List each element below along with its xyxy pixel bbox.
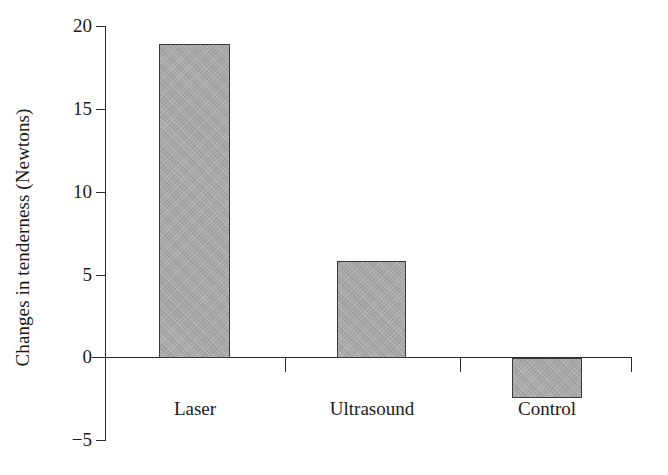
x-tick-mark-3 <box>631 358 632 372</box>
x-category-label-ultrasound: Ultrasound <box>306 398 438 420</box>
y-tick-label-5-wrap: 5 <box>48 265 92 284</box>
y-tick-label-15-wrap: 15 <box>48 99 92 118</box>
y-tick-mark-5 <box>96 275 105 276</box>
y-tick-label-20-wrap: 20 <box>48 16 92 35</box>
x-tick-mark-0 <box>105 358 106 372</box>
x-category-label-laser: Laser <box>134 398 256 420</box>
y-axis-spine <box>105 26 106 441</box>
bar-chart-figure: Changes in tenderness (Newtons) 20 15 10… <box>0 0 668 475</box>
y-tick-label-minus5-wrap: −5 <box>48 430 92 449</box>
y-tick-label-5: 5 <box>52 265 92 284</box>
y-tick-mark-20 <box>96 26 105 27</box>
bar-laser <box>159 44 230 358</box>
y-tick-label-0-wrap: 0 <box>48 347 92 366</box>
y-tick-mark-0 <box>96 357 105 358</box>
y-tick-label-10: 10 <box>52 182 92 201</box>
x-category-label-control: Control <box>482 398 612 420</box>
x-tick-mark-1 <box>285 358 286 372</box>
bar-ultrasound <box>337 261 406 358</box>
y-tick-label-minus5: −5 <box>52 430 92 449</box>
y-tick-mark-10 <box>96 192 105 193</box>
y-tick-label-15: 15 <box>52 99 92 118</box>
y-tick-label-0: 0 <box>52 347 92 366</box>
y-tick-label-20: 20 <box>52 16 92 35</box>
bar-control <box>512 358 582 398</box>
y-tick-mark-minus5 <box>96 440 105 441</box>
plot-area: 20 15 10 5 0 −5 Laser Ul <box>0 0 668 475</box>
y-tick-mark-15 <box>96 109 105 110</box>
x-tick-mark-2 <box>460 358 461 372</box>
y-tick-label-10-wrap: 10 <box>48 182 92 201</box>
